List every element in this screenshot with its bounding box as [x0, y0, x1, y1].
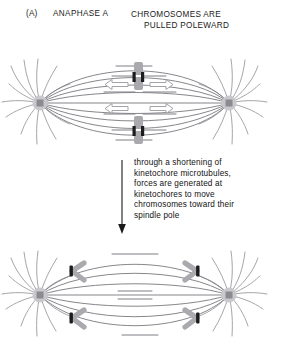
annotation-block: through a shortening of kinetochore micr…	[108, 158, 283, 238]
diagram-metaphase-spindle	[0, 48, 283, 158]
phase-title: ANAPHASE A	[53, 9, 108, 18]
figure-header: (A) ANAPHASE A CHROMOSOMES ARE PULLED PO…	[0, 9, 283, 49]
annotation-line-2: kinetochore microtubules,	[134, 169, 283, 180]
annotation-text: through a shortening of kinetochore micr…	[134, 158, 283, 222]
figure-page: (A) ANAPHASE A CHROMOSOMES ARE PULLED PO…	[0, 0, 283, 353]
kinetochore-icon	[196, 266, 199, 277]
down-arrow-icon	[108, 158, 132, 236]
kinetochore-icon	[196, 313, 199, 324]
force-arrow-upper-right	[150, 80, 173, 90]
centrosome-left	[33, 288, 48, 303]
panel-label: (A)	[26, 9, 38, 18]
chromosome-pair-lower	[133, 116, 145, 144]
centrosome-left	[33, 96, 48, 111]
diagram-anaphase-a-spindle	[0, 240, 283, 350]
caption-line-1: CHROMOSOMES ARE	[131, 10, 221, 19]
centrosome-right	[222, 96, 237, 111]
annotation-line-3: forces are generated at	[134, 179, 283, 190]
caption-line-2: PULLED POLEWARD	[131, 20, 281, 31]
annotation-line-4: kinetochores to move	[134, 190, 283, 201]
force-arrow-lower-left	[105, 104, 128, 114]
kinetochore-icon	[141, 72, 144, 82]
spindle-microtubules	[40, 264, 229, 326]
annotation-line-5: chromosomes toward their	[134, 200, 283, 211]
centrosome-right	[222, 288, 237, 303]
annotation-line-1: through a shortening of	[134, 158, 283, 169]
chromosome-pair-upper	[133, 62, 145, 90]
kinetochore-icon	[133, 72, 136, 82]
kinetochore-icon	[70, 266, 73, 277]
kinetochore-icon	[70, 313, 73, 324]
kinetochore-microtubule-stubs	[112, 254, 158, 335]
annotation-line-6: spindle pole	[134, 211, 283, 222]
kinetochore-icon	[133, 126, 136, 136]
force-arrow-upper-left	[105, 80, 128, 90]
kinetochore-icon	[141, 126, 144, 136]
figure-caption: CHROMOSOMES ARE PULLED POLEWARD	[131, 9, 281, 31]
force-arrow-lower-right	[150, 104, 173, 114]
